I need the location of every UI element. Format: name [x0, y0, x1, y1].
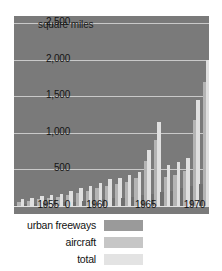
x-tick-label: 1970	[174, 199, 214, 210]
legend-item: urban freeways	[0, 219, 222, 234]
y-tick-label: 2,000	[46, 53, 70, 64]
bar-chart-figure: square miles 2,5002,0001,5001,0005000 19…	[0, 0, 222, 271]
y-tick-label: 1,500	[46, 89, 70, 100]
legend-label: urban freeways	[0, 219, 96, 232]
y-tick-label: 1,000	[46, 126, 70, 137]
legend-item: total	[0, 253, 222, 268]
legend-label: total	[0, 253, 96, 266]
legend-label: aircraft	[0, 236, 96, 249]
y-tick-label: 2,500	[46, 16, 70, 27]
x-tick-label: 1955	[28, 199, 68, 210]
bars-layer	[14, 16, 209, 214]
legend-item: aircraft	[0, 236, 222, 251]
y-tick-label: 500	[54, 162, 70, 173]
legend-swatch	[104, 220, 143, 231]
plot-area: square miles	[14, 16, 209, 214]
x-tick-label: 1960	[77, 199, 117, 210]
chart-legend: urban freewaysaircrafttotal	[0, 219, 222, 271]
legend-swatch	[104, 254, 143, 265]
bar	[206, 60, 209, 206]
x-tick-label: 1965	[126, 199, 166, 210]
legend-swatch	[104, 237, 143, 248]
